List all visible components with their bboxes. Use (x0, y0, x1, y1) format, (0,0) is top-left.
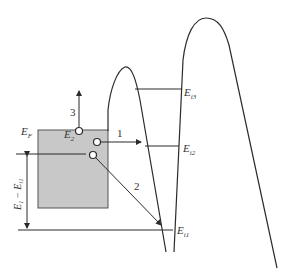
ei1-label: Ei1 (176, 224, 189, 239)
electron-1 (94, 139, 101, 146)
arrow-2-label: 2 (134, 180, 140, 192)
arrow-3-label: 3 (70, 106, 76, 118)
first-barrier (108, 67, 166, 252)
ei3-label: Ei3 (183, 86, 197, 101)
arrow-1-label: 1 (117, 127, 123, 139)
band-diagram: 3 1 2 EF E2 Ei3 Ei2 Ei1 E1 − Ei1 (0, 0, 294, 278)
dimension-label: E1 − Ei1 (12, 178, 25, 211)
second-barrier (183, 18, 277, 268)
electron-2 (90, 152, 97, 159)
ei2-label: Ei2 (182, 142, 196, 157)
electron-e2 (76, 128, 83, 135)
fermi-label: EF (20, 125, 33, 140)
